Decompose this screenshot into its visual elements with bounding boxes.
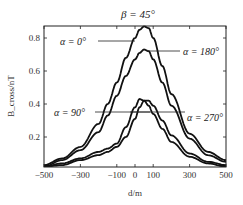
y-tick-label: 0.4	[29, 99, 41, 109]
series-annotation: α = 0°	[60, 36, 86, 47]
y-tick-label: 0.6	[29, 66, 41, 76]
series-annotation: α = 90°	[54, 107, 85, 118]
y-axis-label: B_cross/nT	[6, 75, 16, 117]
x-tick-label: 300	[183, 170, 197, 180]
y-tick-label: 0.8	[29, 33, 41, 43]
chart-title: β = 45°	[120, 8, 155, 20]
x-tick-label: 500	[219, 170, 233, 180]
y-tick-label: 0.2	[29, 132, 40, 142]
chart: −500−300−1000100300500 0.20.40.60.8 β = …	[0, 0, 243, 205]
x-tick-label: 0	[133, 170, 138, 180]
x-axis-label: d/m	[128, 188, 142, 198]
x-tick-label: −300	[71, 170, 90, 180]
series-annotation: α = 270°	[187, 112, 223, 123]
x-tick-label: 100	[146, 170, 160, 180]
series-annotation: α = 180°	[183, 46, 219, 57]
x-tick-label: −100	[108, 170, 127, 180]
x-tick-label: −500	[35, 170, 54, 180]
